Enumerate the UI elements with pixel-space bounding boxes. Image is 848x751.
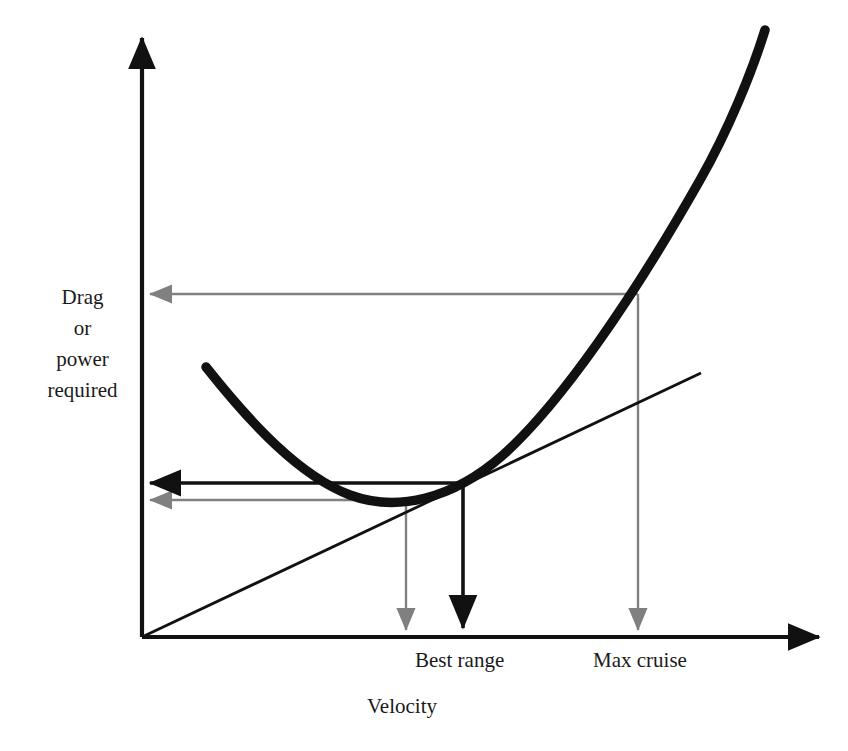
max-cruise-label: Max cruise [593, 648, 687, 673]
max-cruise-guides [150, 294, 638, 630]
y-axis-label-line-1: Drag [30, 282, 135, 313]
best-range-label: Best range [415, 648, 504, 673]
y-axis-label-line-4: required [30, 375, 135, 406]
x-axis-label: Velocity [367, 694, 437, 719]
axis-group [142, 38, 819, 637]
y-axis-label-line-3: power [30, 344, 135, 375]
figure-canvas: Drag or power required Best range Max cr… [0, 0, 848, 751]
drag-power-curve [206, 30, 765, 502]
y-axis-label: Drag or power required [30, 282, 135, 406]
tangent-line-from-origin [142, 373, 701, 637]
y-axis-label-line-2: or [30, 313, 135, 344]
min-drag-guides [150, 500, 406, 630]
